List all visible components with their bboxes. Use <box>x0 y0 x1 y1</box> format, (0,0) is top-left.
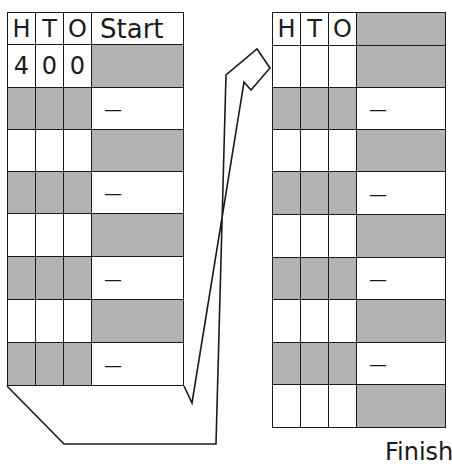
finish-label: Finish <box>385 438 452 464</box>
